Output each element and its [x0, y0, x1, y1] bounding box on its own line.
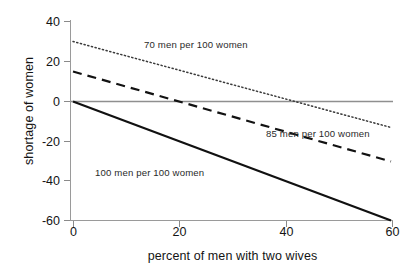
x-tick-marks — [74, 221, 393, 227]
series-line-100-men — [73, 102, 391, 221]
y-tick-label-40: 40 — [14, 15, 60, 29]
y-tick-marks — [64, 22, 70, 221]
series-label-100-men: 100 men per 100 women — [95, 167, 204, 178]
chart-container: shortage of women 40 20 0 -20 -40 -60 0 … — [0, 0, 420, 275]
x-tick-label-60: 60 — [371, 225, 415, 239]
x-tick-label-0: 0 — [52, 225, 96, 239]
x-axis-title: percent of men with two wives — [73, 249, 392, 263]
y-tick-label-neg20: -20 — [14, 135, 60, 149]
y-tick-label-neg40: -40 — [14, 174, 60, 188]
y-tick-label-0: 0 — [14, 95, 60, 109]
series-label-70-men: 70 men per 100 women — [144, 39, 248, 50]
x-tick-label-20: 20 — [158, 225, 202, 239]
x-tick-label-40: 40 — [265, 225, 309, 239]
y-tick-label-20: 20 — [14, 55, 60, 69]
series-label-85-men: 85 men per 100 women — [266, 128, 370, 139]
